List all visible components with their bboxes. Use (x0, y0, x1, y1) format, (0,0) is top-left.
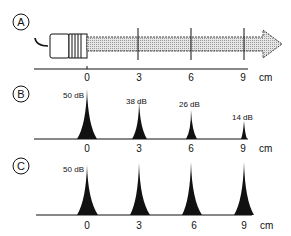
tick-9: 9 (240, 143, 246, 154)
tick-0: 0 (84, 220, 90, 231)
echo-b-9-label: 14 dB (232, 113, 253, 122)
tick-3: 3 (136, 72, 142, 83)
unit-cm: cm (259, 72, 272, 83)
echo-b-6-label: 26 dB (179, 100, 200, 109)
echo-b-0-label: 50 dB (63, 91, 84, 100)
panel-a-label: A (17, 16, 25, 28)
tick-0: 0 (84, 143, 90, 154)
tick-6: 6 (188, 143, 194, 154)
transducer-icon (50, 34, 87, 58)
tick-6: 6 (191, 220, 197, 231)
unit-cm: cm (259, 143, 272, 154)
cable-icon (35, 38, 48, 46)
tick-3: 3 (136, 143, 142, 154)
panel-a: A 0 3 6 9 cm (13, 14, 282, 83)
tick-6: 6 (188, 72, 194, 83)
echo-c-6 (182, 162, 202, 215)
echo-c-9 (234, 162, 254, 215)
tick-3: 3 (136, 220, 142, 231)
tick-0: 0 (84, 72, 90, 83)
tick-9: 9 (240, 72, 246, 83)
panel-b: B 50 dB 38 dB 26 dB 14 dB 0 3 6 9 cm (13, 86, 272, 154)
panel-c: C 50 dB 0 3 6 9 cm (13, 158, 273, 231)
beam-arrow (87, 30, 282, 58)
panel-c-label: C (17, 160, 25, 172)
tick-9: 9 (241, 220, 247, 231)
unit-cm: cm (260, 220, 273, 231)
echo-b-6 (186, 110, 197, 139)
echo-c-3 (130, 163, 150, 215)
echo-b-9 (241, 121, 247, 139)
panel-b-label: B (17, 88, 24, 100)
echo-c-0-label: 50 dB (63, 165, 84, 174)
echo-b-3-label: 38 dB (126, 97, 147, 106)
figure-canvas: A 0 3 6 9 cm B (0, 0, 291, 236)
